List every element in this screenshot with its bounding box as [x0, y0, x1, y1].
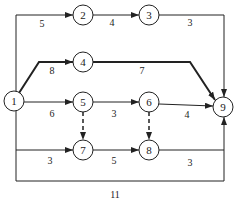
edge-weight: 3	[112, 108, 117, 119]
node-4: 4	[73, 52, 93, 72]
node-3: 3	[139, 5, 159, 25]
node-5: 5	[73, 92, 93, 112]
edge-1-2: 5	[16, 15, 73, 91]
edge-weight: 8	[50, 65, 55, 76]
node-9: 9	[213, 97, 233, 117]
edge-weight: 11	[110, 189, 120, 200]
svg-text:3: 3	[146, 9, 152, 21]
svg-text:9: 9	[220, 101, 226, 113]
svg-text:5: 5	[80, 96, 86, 108]
edge-weight: 3	[48, 155, 53, 166]
node-8: 8	[139, 140, 159, 160]
edge-weight: 3	[188, 17, 193, 28]
svg-text:7: 7	[80, 144, 86, 156]
node-2: 2	[73, 5, 93, 25]
edge-1-5: 6	[24, 102, 73, 119]
edge-6-9: 4	[159, 104, 213, 120]
edge-1-7: 3	[16, 111, 73, 166]
node-1: 1	[4, 91, 24, 111]
node-7: 7	[73, 140, 93, 160]
svg-text:8: 8	[146, 144, 152, 156]
edge-8-9: 3	[159, 150, 224, 168]
edge-weight: 5	[112, 155, 117, 166]
edge-7-8: 5	[93, 150, 139, 166]
edge-2-3: 4	[93, 15, 139, 28]
svg-text:6: 6	[146, 96, 152, 108]
network-diagram: 5 4 3 8 7 6 3 4 3	[0, 0, 236, 207]
edge-weight: 7	[140, 65, 145, 76]
edge-weight: 4	[110, 17, 115, 28]
edge-1-4: 8	[19, 62, 73, 93]
edge-weight: 3	[188, 157, 193, 168]
svg-text:4: 4	[80, 56, 86, 68]
edge-weight: 6	[50, 108, 55, 119]
svg-text:1: 1	[11, 95, 17, 107]
svg-text:2: 2	[80, 9, 86, 21]
edge-3-9: 3	[159, 15, 224, 97]
edge-5-6: 3	[93, 102, 139, 119]
node-6: 6	[139, 92, 159, 112]
edge-weight: 4	[185, 109, 190, 120]
edge-weight: 5	[40, 18, 45, 29]
